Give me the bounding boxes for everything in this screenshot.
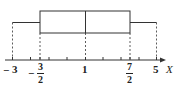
tick-label-neg-three-halves-sign: −: [28, 67, 34, 79]
fraction-denominator: 2: [126, 74, 133, 85]
axis-arrow-icon: [160, 58, 166, 63]
tick-label-neg3: 3: [12, 64, 18, 75]
tick-label-neg3-sign: −: [3, 64, 9, 76]
axis-label-x: X: [166, 63, 173, 75]
tick-label-five: 5: [153, 64, 159, 75]
dashed-guides: [13, 23, 157, 61]
tick-label-seven-halves: 7 2: [126, 62, 133, 85]
fraction-denominator: 2: [37, 74, 44, 85]
boxplot-figure: − 3 − 3 2 1 7 2 5 X: [0, 0, 179, 98]
tick-label-one: 1: [82, 64, 88, 75]
fraction-numerator: 3: [37, 62, 44, 74]
fraction-numerator: 7: [126, 62, 133, 74]
boxplot-svg: [0, 0, 179, 98]
tick-label-neg-three-halves: 3 2: [37, 62, 44, 85]
